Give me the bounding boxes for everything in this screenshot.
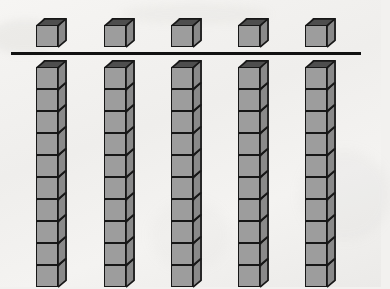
rod-cube	[305, 60, 335, 90]
cube-outline	[238, 18, 269, 49]
unit-cube	[305, 18, 335, 48]
unit-cube	[238, 18, 268, 48]
rod-cube	[36, 60, 66, 90]
cube-outline	[36, 18, 67, 49]
rod-cube	[238, 60, 268, 90]
cube-outline	[305, 60, 336, 91]
cube-outline	[104, 60, 135, 91]
rod-cube	[104, 60, 134, 90]
unit-cube	[104, 18, 134, 48]
cube-outline	[171, 60, 202, 91]
rod-cube	[171, 60, 201, 90]
cube-outline	[104, 18, 135, 49]
cube-outline	[238, 60, 269, 91]
unit-cube	[171, 18, 201, 48]
cube-outline	[171, 18, 202, 49]
cube-outline	[36, 60, 67, 91]
unit-cube	[36, 18, 66, 48]
horizontal-divider-line	[11, 52, 361, 55]
cube-outline	[305, 18, 336, 49]
